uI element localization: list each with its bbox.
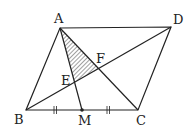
label-f: F (96, 51, 105, 66)
label-c: C (136, 113, 146, 128)
geometry-diagram: A D B M C F E (0, 0, 192, 133)
label-m: M (78, 113, 91, 128)
label-d: D (173, 12, 183, 27)
diagonal-bd (26, 27, 171, 110)
midpoint-m-dot (80, 108, 84, 112)
label-a: A (53, 11, 64, 26)
label-e: E (61, 73, 71, 88)
label-b: B (14, 112, 24, 127)
